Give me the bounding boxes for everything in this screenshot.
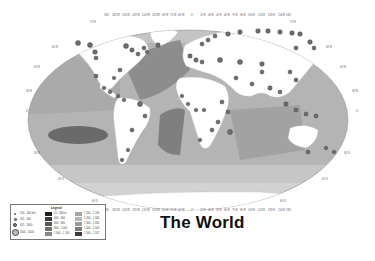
depth-swatch (45, 212, 52, 216)
svg-text:180°: 180° (104, 13, 109, 17)
depth-label: 1 000 - 1 100 (54, 232, 69, 235)
svg-text:180°: 180° (286, 13, 291, 17)
symbol-label: 601 - 3000 (20, 224, 32, 227)
symbol-label: 301 - 600 (20, 218, 31, 221)
svg-text:60°W: 60°W (178, 13, 185, 17)
svg-text:60°E: 60°E (224, 208, 230, 212)
svg-text:45°S: 45°S (322, 177, 328, 181)
svg-text:165°W: 165°W (112, 208, 120, 212)
svg-text:120°E: 120°E (258, 208, 265, 212)
svg-text:60°N: 60°N (326, 45, 332, 49)
svg-text:45°N: 45°N (34, 65, 40, 69)
depth-label: 1 400 - 1 500 (84, 227, 99, 230)
depth-swatch (75, 227, 82, 231)
symbol-small-icon (14, 213, 16, 215)
svg-text:90°E: 90°E (240, 208, 246, 212)
legend: Legend 100 - 300 m/s 301 - 600 601 - 300… (10, 204, 106, 240)
symbol-medium-icon (14, 218, 17, 221)
svg-text:180°: 180° (286, 208, 291, 212)
svg-text:135°E: 135°E (268, 208, 275, 212)
svg-text:15°E: 15°E (200, 208, 206, 212)
svg-text:120°E: 120°E (258, 13, 265, 17)
svg-text:105°E: 105°E (248, 208, 255, 212)
svg-text:45°E: 45°E (216, 208, 222, 212)
svg-text:60°E: 60°E (224, 13, 230, 17)
symbol-large-icon (13, 223, 17, 227)
svg-text:45°E: 45°E (216, 13, 222, 17)
svg-text:45°N: 45°N (340, 65, 346, 69)
svg-text:75°W: 75°W (170, 13, 177, 17)
legend-title: Legend (51, 206, 62, 210)
svg-text:30°E: 30°E (208, 208, 214, 212)
svg-text:30°N: 30°N (26, 89, 32, 93)
depth-swatch (75, 212, 82, 216)
svg-text:120°W: 120°W (142, 13, 150, 17)
svg-text:120°W: 120°W (142, 208, 150, 212)
svg-text:75°N: 75°N (90, 20, 96, 24)
svg-text:75°E: 75°E (232, 13, 238, 17)
symbol-label: 100 - 300 m/s (20, 212, 36, 215)
svg-text:75°W: 75°W (170, 208, 177, 212)
svg-text:0°: 0° (191, 208, 193, 212)
svg-text:150°W: 150°W (122, 13, 130, 17)
svg-text:30°E: 30°E (208, 13, 214, 17)
depth-swatch (75, 222, 82, 226)
svg-text:0°: 0° (26, 109, 28, 113)
svg-text:135°W: 135°W (132, 208, 140, 212)
depth-label: 1 500 - 1 557 (84, 232, 99, 235)
depth-label: 1 300 - 1 400 (84, 222, 99, 225)
depth-label: 1 100 - 1 200 (84, 212, 99, 215)
svg-text:60°N: 60°N (52, 45, 58, 49)
svg-text:105°E: 105°E (248, 13, 255, 17)
svg-text:45°S: 45°S (58, 177, 64, 181)
svg-text:150°E: 150°E (278, 13, 285, 17)
svg-text:60°W: 60°W (178, 208, 185, 212)
depth-swatch (75, 232, 82, 236)
svg-text:165°W: 165°W (112, 13, 120, 17)
svg-text:60°S: 60°S (280, 199, 286, 203)
svg-text:30°N: 30°N (352, 89, 358, 93)
map-title: The World (160, 213, 245, 233)
depth-label: 600 - 800 (54, 222, 65, 225)
depth-label: 400 - 600 (54, 217, 65, 220)
depth-swatch (75, 217, 82, 221)
top-axis: 180°165°W150°W 135°W120°W105°W 90°W75°W6… (104, 13, 291, 17)
svg-text:0°: 0° (191, 13, 193, 17)
svg-text:75°N: 75°N (290, 20, 296, 24)
svg-text:30°S: 30°S (34, 151, 40, 155)
svg-text:75°E: 75°E (232, 208, 238, 212)
svg-text:30°S: 30°S (344, 151, 350, 155)
svg-text:105°W: 105°W (152, 208, 160, 212)
svg-text:60°S: 60°S (92, 199, 98, 203)
svg-text:90°W: 90°W (162, 13, 169, 17)
symbol-label: 3001 - 5000 (20, 231, 34, 234)
svg-text:135°W: 135°W (132, 13, 140, 17)
svg-text:105°W: 105°W (152, 13, 160, 17)
depth-label: 800 - 1 000 (54, 227, 67, 230)
depth-label: 1 200 - 1 300 (84, 217, 99, 220)
svg-text:0°: 0° (356, 109, 358, 113)
depth-swatch (45, 227, 52, 231)
svg-text:135°E: 135°E (268, 13, 275, 17)
depth-swatch (45, 217, 52, 221)
svg-text:90°E: 90°E (240, 13, 246, 17)
depth-label: 25 - 400 m (54, 212, 66, 215)
svg-text:150°E: 150°E (278, 208, 285, 212)
depth-swatch (45, 222, 52, 226)
svg-text:15°E: 15°E (200, 13, 206, 17)
svg-text:90°W: 90°W (162, 208, 169, 212)
symbol-xlarge-icon (12, 229, 19, 236)
depth-swatch (45, 232, 52, 236)
svg-text:150°W: 150°W (122, 208, 130, 212)
